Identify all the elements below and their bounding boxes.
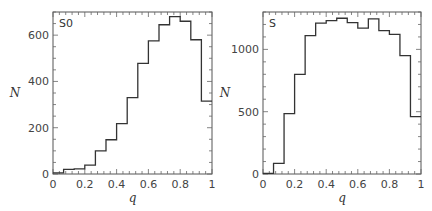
- x-tick-label: 0.2: [286, 178, 304, 191]
- x-tick-label: 1: [418, 178, 425, 191]
- x-tick-label: 0.4: [317, 178, 335, 191]
- x-tick-label: 0.6: [140, 178, 158, 191]
- y-tick-label: 500: [238, 106, 259, 119]
- panel-label: S: [269, 17, 276, 30]
- x-tick-label: 1: [209, 178, 216, 191]
- y-axis-label: N: [9, 86, 21, 100]
- y-tick-label: 200: [28, 122, 49, 135]
- x-tick-label: 0.4: [108, 178, 126, 191]
- plot-frame: [263, 12, 421, 174]
- y-axis-label: N: [219, 86, 231, 100]
- y-tick-label: 600: [28, 29, 49, 42]
- x-axis-label: q: [338, 191, 346, 205]
- histogram-panel-s0: 00.20.40.60.810200400600qNS0: [9, 12, 216, 205]
- plot-frame: [53, 12, 212, 174]
- histogram-figure: 00.20.40.60.810200400600qNS0 00.20.40.60…: [0, 0, 432, 211]
- histogram-steps: [263, 18, 421, 173]
- y-tick-label: 0: [252, 168, 259, 181]
- y-tick-label: 400: [28, 75, 49, 88]
- x-tick-label: 0.6: [349, 178, 367, 191]
- y-tick-label: 0: [42, 168, 49, 181]
- x-tick-label: 0: [260, 178, 267, 191]
- x-tick-label: 0: [50, 178, 57, 191]
- histogram-steps: [53, 17, 212, 173]
- y-tick-label: 1000: [231, 43, 259, 56]
- x-tick-label: 0.8: [171, 178, 189, 191]
- panel-label: S0: [59, 17, 73, 30]
- x-tick-label: 0.2: [76, 178, 94, 191]
- x-axis-label: q: [129, 191, 137, 205]
- histogram-panel-s: 00.20.40.60.8105001000qNS: [219, 12, 425, 205]
- x-tick-label: 0.8: [381, 178, 399, 191]
